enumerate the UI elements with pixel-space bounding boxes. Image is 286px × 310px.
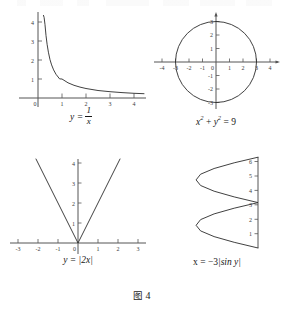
x-tick-label: 1	[97, 246, 100, 252]
fraction-numerator: 1	[85, 106, 92, 115]
scan-artifact-band	[0, 0, 286, 6]
y-tick-label: 3	[31, 39, 34, 45]
panel-sinabs: 1 2 3 4 5 6 x = −3|sin y|	[150, 155, 284, 257]
x-axis-ticks	[62, 94, 134, 99]
caption-exponent: 2	[218, 114, 221, 121]
panel-reciprocal: 0 1 2 3 4 1 2 3 4 y = 1 x	[14, 10, 148, 110]
x-tick-label: -2	[187, 65, 192, 71]
y-tick-label: 2	[249, 217, 252, 223]
x-tick-label: 3	[137, 246, 140, 252]
y-tick-label: 2	[31, 58, 34, 64]
y-tick-label: 4	[249, 188, 252, 194]
curve-reciprocal	[44, 15, 145, 93]
y-tick-label: 4	[72, 161, 75, 167]
panel-circle: -4 -3 -2 -1 0 1 2 3 4 3 2 1 -1 -2 -3 x2 …	[148, 10, 284, 110]
x-tick-label: 1	[228, 65, 231, 71]
caption-rhs: |sin y|	[218, 257, 241, 267]
y-tick-label: -2	[208, 86, 213, 92]
caption-plus: +	[206, 117, 211, 127]
caption-rhs: |2x|	[79, 255, 93, 265]
figure-page: 0 1 2 3 4 1 2 3 4 y = 1 x	[0, 0, 286, 310]
y-tick-label: 1	[72, 221, 75, 227]
y-tick-label: 2	[210, 32, 213, 38]
y-tick-label: 5	[249, 173, 252, 179]
y-tick-label: 2	[72, 201, 75, 207]
x-tick-label: 2	[117, 246, 120, 252]
x-tick-label: 0	[211, 65, 214, 71]
x-tick-label: -1	[56, 246, 61, 252]
y-tick-label: 1	[249, 231, 252, 237]
x-tick-label: 2	[242, 65, 245, 71]
caption-circle: x2 + y2 = 9	[148, 114, 284, 127]
x-tick-label: 4	[269, 65, 272, 71]
y-tick-label: 6	[249, 159, 252, 165]
figure-label-cjk: 图	[133, 290, 146, 301]
caption-reciprocal: y = 1 x	[14, 107, 148, 128]
y-tick-label: 4	[31, 20, 34, 26]
y-tick-label: 1	[31, 77, 34, 83]
x-axis-arrow	[276, 60, 281, 63]
figure-label: 图4	[0, 288, 286, 302]
chart-circle: -4 -3 -2 -1 0 1 2 3 4 3 2 1 -1 -2 -3	[148, 10, 284, 110]
y-axis-ticks	[255, 162, 259, 234]
caption-lhs: y =	[70, 112, 83, 122]
caption-lhs: y =	[63, 255, 76, 265]
fraction-denominator: x	[85, 117, 92, 126]
caption-equals: = 9	[223, 117, 235, 127]
y-axis-ticks	[78, 163, 82, 223]
caption-abs2x: y = |2x|	[8, 254, 148, 265]
chart-reciprocal: 0 1 2 3 4 1 2 3 4	[14, 10, 148, 110]
chart-sinabs: 1 2 3 4 5 6	[150, 155, 284, 257]
y-tick-label: 1	[210, 46, 213, 52]
x-tick-label: -3	[16, 246, 21, 252]
caption-fraction: 1 x	[85, 106, 92, 127]
x-tick-label: -2	[36, 246, 41, 252]
caption-exponent: 2	[200, 114, 203, 121]
chart-abs2x: -3 -2 -1 0 1 2 3 1 2 3 4	[8, 155, 148, 257]
panel-abs2x: -3 -2 -1 0 1 2 3 1 2 3 4 y = |2x|	[8, 155, 148, 257]
x-tick-label: -4	[160, 65, 165, 71]
y-axis-arrow	[214, 12, 217, 17]
caption-lhs: x = −3	[193, 257, 218, 267]
x-tick-label: -1	[200, 65, 205, 71]
y-tick-label: 3	[249, 202, 252, 208]
y-tick-label: -1	[208, 73, 213, 79]
y-tick-label: 3	[72, 181, 75, 187]
x-tick-label: 0	[73, 246, 76, 252]
figure-label-number: 4	[146, 290, 154, 301]
y-axis-ticks	[38, 22, 42, 79]
caption-sinabs: x = −3|sin y|	[150, 256, 284, 267]
